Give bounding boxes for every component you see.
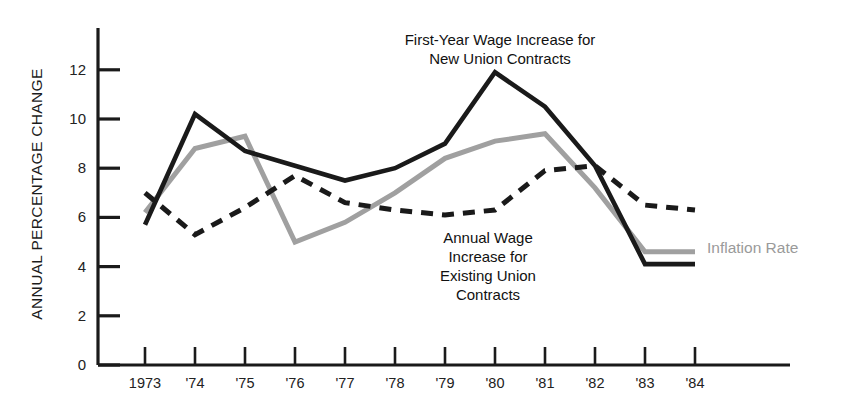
axes [98,28,790,365]
annotation-inflation-rate: Inflation Rate [707,239,798,257]
y-tick-label: 6 [60,208,86,225]
y-tick-label: 0 [60,356,86,373]
y-tick-label: 4 [60,258,86,275]
y-tick-label: 2 [60,307,86,324]
y-tick-label: 8 [60,159,86,176]
y-tick-label: 12 [60,61,86,78]
x-tick-label: '84 [665,375,725,391]
line-chart: ANNUAL PERCENTAGE CHANGE 024681012 1973'… [0,0,847,418]
y-tick-label: 10 [60,110,86,127]
annotation-existing-contracts: Annual Wage Increase for Existing Union … [358,228,618,304]
annotation-new-contracts: First-Year Wage Increase for New Union C… [370,30,630,68]
